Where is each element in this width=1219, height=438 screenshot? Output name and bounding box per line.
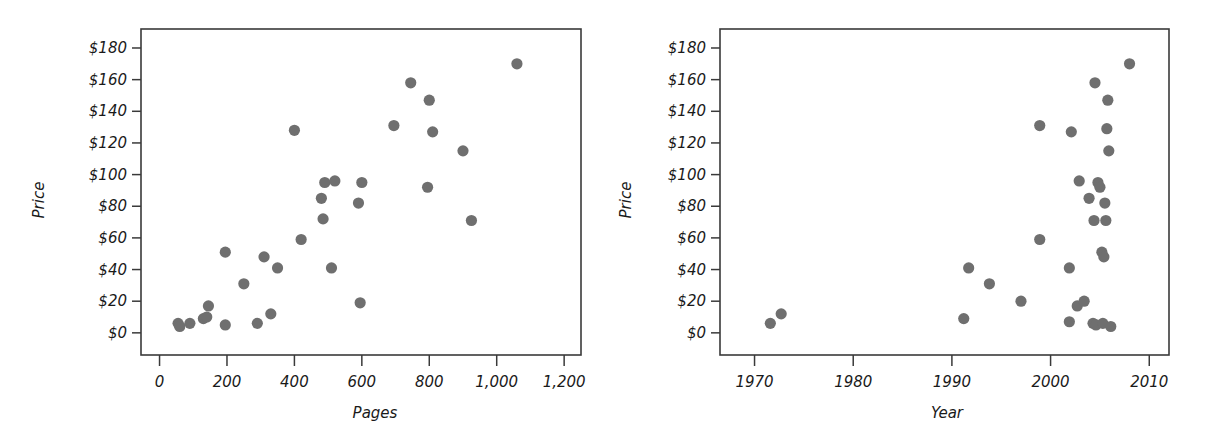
x-axis-title-pages: Pages xyxy=(353,404,398,422)
x-tick-label: 1970 xyxy=(735,373,773,391)
data-point xyxy=(174,321,185,332)
data-point xyxy=(765,318,776,329)
data-point xyxy=(1103,145,1114,156)
y-tick-label: $60 xyxy=(98,229,127,247)
x-tick-label: 2000 xyxy=(1031,373,1069,391)
data-point xyxy=(466,215,477,226)
y-axis-ticks-pages xyxy=(132,48,141,333)
data-point xyxy=(355,297,366,308)
y-tick-label: $60 xyxy=(677,229,706,247)
data-point xyxy=(1064,316,1075,327)
data-point xyxy=(316,193,327,204)
data-point xyxy=(1088,215,1099,226)
y-tick-label: $20 xyxy=(677,292,706,310)
data-point xyxy=(258,251,269,262)
data-point xyxy=(296,234,307,245)
data-point xyxy=(776,308,787,319)
x-tick-label: 1980 xyxy=(834,373,872,391)
data-point xyxy=(424,95,435,106)
x-axis-tick-labels-year: 19701980199020002010 xyxy=(735,373,1168,391)
data-point xyxy=(1034,120,1045,131)
y-axis-title-year: Price xyxy=(617,182,635,219)
data-point xyxy=(1100,215,1111,226)
data-point xyxy=(326,262,337,273)
x-tick-label: 2010 xyxy=(1130,373,1168,391)
y-tick-label: $80 xyxy=(98,197,127,215)
data-point xyxy=(427,126,438,137)
y-axis-ticks-year xyxy=(711,48,720,333)
scatter-plot-figure: $0$20$40$60$80$100$120$140$160$180 02004… xyxy=(0,0,1219,438)
x-tick-label: 800 xyxy=(415,373,444,391)
data-points-pages xyxy=(172,58,522,332)
data-point xyxy=(265,308,276,319)
data-point xyxy=(422,182,433,193)
y-tick-label: $120 xyxy=(668,134,706,152)
x-axis-title-year: Year xyxy=(931,404,964,422)
y-tick-label: $0 xyxy=(687,324,706,342)
data-point xyxy=(203,300,214,311)
x-tick-label: 600 xyxy=(348,373,377,391)
data-point xyxy=(405,77,416,88)
y-tick-label: $80 xyxy=(677,197,706,215)
y-tick-label: $120 xyxy=(89,134,127,152)
x-axis-ticks-year xyxy=(755,355,1150,366)
panel-year-vs-price: $0$20$40$60$80$100$120$140$160$180 19701… xyxy=(609,0,1219,438)
data-point xyxy=(201,311,212,322)
data-point xyxy=(356,177,367,188)
y-tick-label: $40 xyxy=(98,261,127,279)
y-axis-tick-labels-year: $0$20$40$60$80$100$120$140$160$180 xyxy=(668,39,706,342)
data-point xyxy=(984,278,995,289)
data-point xyxy=(1124,58,1135,69)
y-tick-label: $160 xyxy=(668,71,706,89)
x-axis-tick-labels-pages: 02004006008001,0001,200 xyxy=(155,373,586,391)
y-tick-label: $100 xyxy=(668,166,706,184)
y-tick-label: $180 xyxy=(668,39,706,57)
x-tick-label: 200 xyxy=(213,373,242,391)
data-point xyxy=(272,262,283,273)
x-tick-label: 1,000 xyxy=(475,373,518,391)
data-points-year xyxy=(765,58,1135,332)
y-axis-title-pages: Price xyxy=(30,182,48,219)
y-axis-tick-labels-pages: $0$20$40$60$80$100$120$140$160$180 xyxy=(89,39,127,342)
data-point xyxy=(1083,193,1094,204)
data-point xyxy=(317,213,328,224)
data-point xyxy=(329,175,340,186)
data-point xyxy=(511,58,522,69)
x-tick-label: 1990 xyxy=(933,373,971,391)
data-point xyxy=(220,319,231,330)
data-point xyxy=(252,318,263,329)
data-point xyxy=(1034,234,1045,245)
data-point xyxy=(963,262,974,273)
data-point xyxy=(1105,321,1116,332)
data-point xyxy=(1099,197,1110,208)
data-point xyxy=(1064,262,1075,273)
data-point xyxy=(1079,296,1090,307)
y-tick-label: $40 xyxy=(677,261,706,279)
y-tick-label: $140 xyxy=(668,102,706,120)
x-tick-label: 1,200 xyxy=(543,373,586,391)
data-point xyxy=(1094,182,1105,193)
x-tick-label: 0 xyxy=(155,373,165,391)
data-point xyxy=(457,145,468,156)
y-tick-label: $180 xyxy=(89,39,127,57)
year-chart-svg: $0$20$40$60$80$100$120$140$160$180 19701… xyxy=(609,0,1219,438)
data-point xyxy=(319,177,330,188)
data-point xyxy=(388,120,399,131)
y-tick-label: $140 xyxy=(89,102,127,120)
panel-pages-vs-price: $0$20$40$60$80$100$120$140$160$180 02004… xyxy=(0,0,610,438)
x-tick-label: 400 xyxy=(280,373,309,391)
data-point xyxy=(1066,126,1077,137)
data-point xyxy=(1089,77,1100,88)
data-point xyxy=(238,278,249,289)
y-tick-label: $0 xyxy=(108,324,127,342)
data-point xyxy=(220,247,231,258)
data-point xyxy=(1015,296,1026,307)
y-tick-label: $160 xyxy=(89,71,127,89)
x-axis-ticks-pages xyxy=(160,355,565,366)
data-point xyxy=(184,318,195,329)
data-point xyxy=(1101,123,1112,134)
data-point xyxy=(958,313,969,324)
data-point xyxy=(1102,95,1113,106)
data-point xyxy=(1074,175,1085,186)
y-tick-label: $100 xyxy=(89,166,127,184)
